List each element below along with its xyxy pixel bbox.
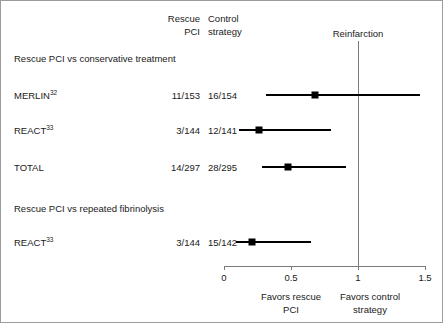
null-reference-line [358,41,359,266]
study-footnote: 32 [50,89,57,96]
point-estimate-1-0 [249,239,256,246]
study-name: REACT [14,237,46,248]
control-events-1-0: 15/142 [208,237,237,248]
treatment-events-0-0: 11/153 [172,90,200,101]
point-estimate-0-0 [312,92,319,99]
study-label-0-2: TOTAL [14,162,44,173]
study-label-0-0: MERLIN32 [14,90,57,101]
outcome-label: Reinfarction [333,28,384,39]
column-header-control-line1: Control [208,13,239,24]
study-footnote: 33 [46,124,53,131]
x-axis-tick-2 [358,266,359,270]
point-estimate-0-2 [285,164,292,171]
section-heading-1: Rescue PCI vs repeated fibrinolysis [14,203,164,214]
favors-left-line2: PCI [283,304,299,315]
study-footnote: 33 [46,236,53,243]
x-axis-tick-label-0: 0 [221,272,226,283]
column-header-treatment-line1: Rescue [168,13,200,24]
x-axis-tick-1 [291,266,292,270]
treatment-events-0-2: 14/297 [171,162,200,173]
favors-right-line1: Favors control [340,291,400,302]
forest-plot-figure: Rescue PCI Control strategy Reinfarction… [0,0,443,323]
x-axis-tick-label-1: 0.5 [284,272,297,283]
x-axis-tick-label-2: 1 [355,272,360,283]
column-header-control-line2: strategy [208,26,242,37]
study-name: MERLIN [14,90,50,101]
column-header-treatment-line2: PCI [184,26,200,37]
ci-line-0-0 [266,94,420,96]
section-heading-0: Rescue PCI vs conservative treatment [14,53,176,64]
ci-line-0-1 [239,129,331,131]
study-label-1-0: REACT33 [14,237,53,248]
favors-right-line2: strategy [353,304,387,315]
x-axis-tick-3 [425,266,426,270]
x-axis-tick-label-3: 1.5 [418,272,431,283]
favors-left-line1: Favors rescue [261,291,321,302]
study-label-0-1: REACT33 [14,125,53,136]
study-name: REACT [14,125,46,136]
treatment-events-0-1: 3/144 [176,125,200,136]
ci-line-1-0 [236,241,311,243]
treatment-events-1-0: 3/144 [176,237,200,248]
ci-line-0-2 [262,166,346,168]
x-axis-tick-0 [224,266,225,270]
control-events-0-0: 16/154 [208,90,237,101]
point-estimate-0-1 [255,127,262,134]
study-name: TOTAL [14,162,44,173]
control-events-0-1: 12/141 [208,125,237,136]
x-axis-line [224,266,425,267]
control-events-0-2: 28/295 [208,162,237,173]
